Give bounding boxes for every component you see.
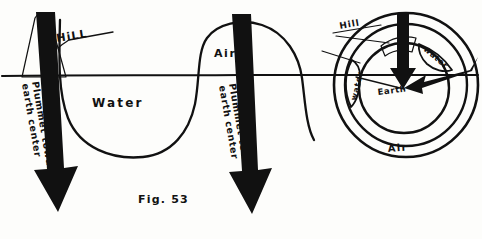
water-label-main: Water <box>92 96 144 110</box>
circular-earth-diagram: Hill water water Earth Air <box>322 13 478 157</box>
water-label-circle-right: water <box>422 45 450 71</box>
wave-curve <box>59 20 314 157</box>
hand-drawn-diagram-canvas: HiLL Water Air Plummet toward earth cent… <box>0 0 482 239</box>
figure-caption: Fig. 53 <box>138 193 189 206</box>
hill-label-group-left: HiLL <box>55 27 113 48</box>
earth-label-circle: Earth <box>377 84 407 97</box>
figure-53-illustration: HiLL Water Air Plummet toward earth cent… <box>0 0 482 239</box>
air-label-main: Air <box>214 47 237 60</box>
air-label-circle: Air <box>387 142 408 154</box>
